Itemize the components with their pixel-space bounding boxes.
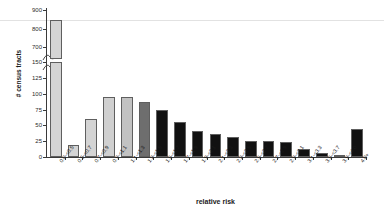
bar-upper-segment — [50, 20, 62, 59]
y-tick-label: 900 — [32, 7, 42, 13]
y-tick-label: 25 — [35, 138, 42, 144]
y-tick-mark — [43, 47, 46, 48]
y-axis-title: # census tracts — [15, 14, 22, 134]
y-tick-label: 50 — [35, 122, 42, 128]
y-tick-label: 100 — [32, 91, 42, 97]
y-tick-mark — [43, 157, 46, 158]
plot-area — [47, 8, 366, 157]
y-tick-label: 125 — [32, 75, 42, 81]
bar-chart: # census tracts relative risk 0255075100… — [0, 0, 384, 219]
x-axis-title: relative risk — [196, 198, 235, 205]
y-tick-label: 800 — [32, 26, 42, 32]
bar — [50, 62, 62, 157]
y-tick-label: 75 — [35, 107, 42, 113]
y-tick-mark — [43, 78, 46, 79]
y-tick-mark — [43, 110, 46, 111]
y-tick-mark — [43, 141, 46, 142]
y-tick-mark — [43, 29, 46, 30]
y-tick-label: 700 — [32, 44, 42, 50]
y-tick-mark — [43, 94, 46, 95]
y-tick-mark — [43, 125, 46, 126]
y-tick-label: 0 — [39, 154, 42, 160]
y-tick-mark — [43, 62, 46, 63]
y-tick-label: 150 — [32, 59, 42, 65]
y-tick-mark — [43, 10, 46, 11]
